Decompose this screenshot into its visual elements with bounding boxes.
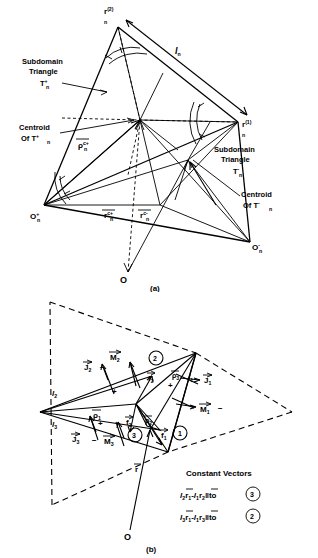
label-rho-c-plus: ρc+n: [78, 140, 89, 152]
sign-plus-edge1: +: [168, 381, 173, 390]
label-origin-n-plus: O+n: [30, 211, 40, 223]
label-subdomain-minus-line1: Subdomain: [214, 145, 255, 154]
label-f2: f2: [148, 374, 154, 384]
sign-plus-edge2: +: [112, 387, 117, 396]
label-J3: J3: [72, 435, 79, 445]
panel-a-diagram: r(2)n r(1)n ln Subdomain Triangle T+n Ce…: [0, 0, 318, 292]
circle-label-3: 3: [132, 432, 136, 439]
label-M1: M1: [200, 405, 210, 415]
svg-text:3: 3: [250, 491, 254, 498]
label-edge-l2: l2: [52, 389, 57, 399]
label-edge-l3: l3: [52, 420, 57, 430]
label-origin-b: O: [124, 532, 131, 542]
label-f1: f1: [161, 431, 167, 441]
sign-plus-edge3: +: [98, 419, 103, 428]
label-edge-length: ln: [175, 46, 181, 57]
label-global-origin-a: O: [120, 275, 127, 285]
label-origin-n-minus: O-n: [252, 242, 262, 254]
svg-text:2: 2: [250, 513, 254, 520]
label-M2: M2: [110, 353, 120, 363]
label-M3: M3: [104, 437, 114, 447]
constant-vectors-title: Constant Vectors: [186, 469, 252, 478]
circle-label-1: 1: [178, 430, 182, 437]
circle-label-2: 2: [153, 355, 157, 362]
svg-text:l3r1-l1r3‖to: l3r1-l1r3‖to: [180, 513, 217, 523]
label-vertex-r1: r(1)n: [242, 119, 252, 138]
label-centroid-minus-line1: Centroid: [241, 190, 272, 199]
caption-b: (b): [146, 545, 157, 554]
label-J2: J2: [84, 363, 91, 373]
label-edge-l1: l1: [188, 373, 193, 383]
label-subdomain-minus-line2: Triangle: [221, 155, 250, 164]
label-centroid-plus-line2: Of T+n: [21, 133, 50, 145]
label-subdomain-plus-line2: Triangle: [29, 67, 58, 76]
panel-b-diagram: 2 3 1 J2 M2 J3 M3 J1 M1 f2 f3 f1 ρ1 ρ2 ρ…: [0, 290, 318, 558]
sign-minus-edge3: −: [92, 436, 97, 445]
label-r-c-minus: rc-n: [140, 210, 149, 222]
constant-vectors-formula-1: l2r1-l1r2‖to 3: [180, 487, 260, 501]
svg-text:l2r1-l1r2‖to: l2r1-l1r2‖to: [180, 491, 217, 501]
label-rho3: ρ3: [172, 372, 179, 381]
sign-minus-edge2: −: [100, 363, 105, 372]
sign-minus-edge1: −: [218, 404, 223, 413]
label-centroid-plus-line1: Centroid: [19, 123, 50, 132]
label-J1: J1: [204, 376, 211, 386]
label-subdomain-plus-symbol: T+n: [40, 78, 49, 90]
label-r-vector: r: [135, 465, 138, 474]
label-vertex-r2: r(2)n: [104, 6, 114, 25]
label-subdomain-plus-line1: Subdomain: [22, 57, 63, 66]
label-subdomain-minus-symbol: T-n: [233, 166, 242, 178]
label-f3: f3: [126, 418, 132, 428]
constant-vectors-formula-2: l3r1-l1r3‖to 2: [180, 509, 260, 523]
